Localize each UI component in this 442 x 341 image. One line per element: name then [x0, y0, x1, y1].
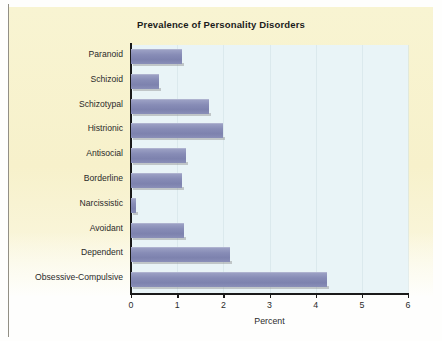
y-axis-label-schizotypal: Schizotypal	[79, 100, 123, 109]
x-tick-6	[408, 293, 409, 298]
y-axis-label-dependent: Dependent	[81, 248, 123, 257]
y-axis-label-paranoid: Paranoid	[89, 50, 123, 59]
bar-row[interactable]: Avoidant	[131, 220, 408, 245]
x-tick-label-5: 5	[359, 300, 364, 310]
bar-borderline[interactable]	[131, 173, 182, 188]
x-tick-2	[223, 293, 224, 298]
bar-schizoid[interactable]	[131, 74, 159, 89]
bar-histrionic[interactable]	[131, 123, 223, 138]
bar-row[interactable]: Histrionic	[131, 120, 408, 145]
x-tick-0	[131, 293, 132, 298]
x-tick-5	[362, 293, 363, 298]
x-tick-label-1: 1	[175, 300, 180, 310]
bar-paranoid[interactable]	[131, 49, 182, 64]
y-axis-label-narcissistic: Narcissistic	[80, 199, 123, 208]
bar-avoidant[interactable]	[131, 223, 184, 238]
bar-row[interactable]: Paranoid	[131, 46, 408, 71]
y-axis-label-avoidant: Avoidant	[90, 224, 123, 233]
x-tick-label-6: 6	[406, 300, 411, 310]
bar-row[interactable]: Antisocial	[131, 145, 408, 170]
bar-row[interactable]: Schizoid	[131, 71, 408, 96]
bar-row[interactable]: Narcissistic	[131, 195, 408, 220]
bar-obsessive-compulsive[interactable]	[131, 272, 327, 287]
y-axis-label-borderline: Borderline	[84, 174, 123, 183]
x-tick-label-0: 0	[129, 300, 134, 310]
bar-row[interactable]: Schizotypal	[131, 96, 408, 121]
x-axis-title: Percent	[131, 316, 408, 326]
x-tick-1	[177, 293, 178, 298]
gridline-x-6	[408, 45, 409, 293]
y-axis-label-obsessive-compulsive: Obsessive-Compulsive	[35, 273, 123, 282]
x-tick-label-2: 2	[221, 300, 226, 310]
x-tick-4	[316, 293, 317, 298]
y-axis-label-schizoid: Schizoid	[91, 75, 123, 84]
x-tick-3	[270, 293, 271, 298]
bar-dependent[interactable]	[131, 247, 230, 262]
bar-schizotypal[interactable]	[131, 99, 209, 114]
y-axis-label-antisocial: Antisocial	[86, 149, 123, 158]
bar-narcissistic[interactable]	[131, 198, 136, 213]
y-axis-label-histrionic: Histrionic	[88, 124, 123, 133]
x-tick-label-3: 3	[267, 300, 272, 310]
bar-antisocial[interactable]	[131, 148, 186, 163]
chart-title: Prevalence of Personality Disorders	[9, 19, 433, 30]
figure-canvas: Prevalence of Personality Disorders Para…	[0, 0, 442, 341]
x-tick-label-4: 4	[313, 300, 318, 310]
bar-row[interactable]: Obsessive-Compulsive	[131, 269, 408, 294]
bar-row[interactable]: Borderline	[131, 170, 408, 195]
bar-row[interactable]: Dependent	[131, 244, 408, 269]
